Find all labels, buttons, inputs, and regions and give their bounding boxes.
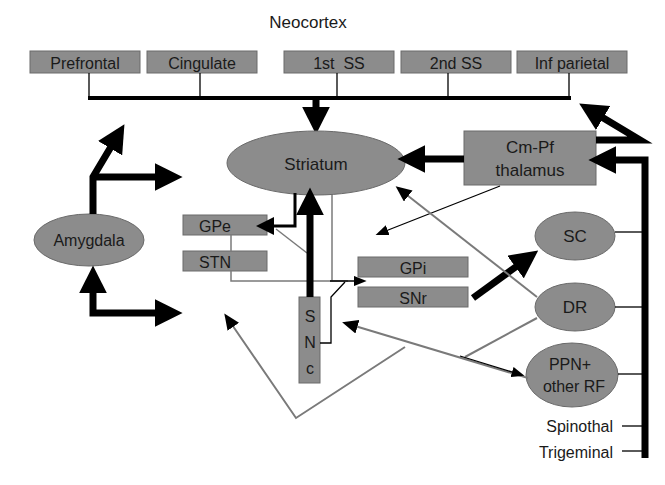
snc-label-n: N	[304, 334, 316, 351]
sc-node: SC	[535, 212, 615, 260]
stn-to-gpi-path	[231, 271, 348, 281]
snc-to-gpi-link	[320, 282, 345, 343]
cortex-area-inf-parietal: Inf parietal	[517, 51, 627, 73]
thalamus-node: Cm-Pf thalamus	[464, 131, 596, 185]
gpe-snc-link	[276, 229, 307, 253]
spinothal-label: Spinothal	[546, 418, 613, 435]
ppn-label-2: other RF	[543, 378, 605, 395]
cortex-label: 1st SS	[313, 55, 365, 72]
cortex-area-1st-ss: 1st SS	[284, 51, 394, 73]
cortex-label: Cingulate	[168, 55, 236, 72]
cortex-label: 2nd SS	[430, 55, 482, 72]
striatum-label: Striatum	[284, 155, 347, 174]
cortex-area-2nd-ss: 2nd SS	[401, 51, 511, 73]
striatum-node: Striatum	[227, 131, 405, 195]
ppn-to-snc-arrow	[345, 323, 528, 378]
thalamus-label-2: thalamus	[496, 161, 565, 180]
snr-node: SNr	[358, 287, 468, 307]
gpi-node: GPi	[358, 257, 468, 277]
dr-descending-branch	[465, 318, 537, 357]
ppn-label-1: PPN+	[549, 356, 591, 373]
amygdala-node: Amygdala	[34, 214, 144, 266]
amygdala-ventral-projection-arrow	[93, 300, 170, 313]
snr-label: SNr	[399, 290, 427, 307]
neocortex-title: Neocortex	[269, 13, 347, 32]
dr-label: DR	[563, 298, 588, 317]
ppn-rf-node: PPN+ other RF	[526, 343, 618, 407]
thalamus-label-1: Cm-Pf	[506, 138, 554, 157]
cortex-area-cingulate: Cingulate	[147, 51, 257, 73]
basal-ganglia-circuit-diagram: Neocortex Prefrontal Cingulate 1st SS 2n…	[0, 0, 665, 485]
cortex-area-prefrontal: Prefrontal	[30, 51, 140, 73]
snr-to-sc-arrow	[473, 258, 528, 298]
cortex-label: Inf parietal	[535, 55, 610, 72]
stn-node: STN	[183, 251, 267, 271]
gpe-label: GPe	[199, 218, 231, 235]
gpe-node: GPe	[183, 215, 267, 235]
sc-label: SC	[563, 227, 587, 246]
snc-label-c: c	[306, 360, 314, 377]
dr-to-striatum-arrow	[398, 188, 537, 297]
stn-label: STN	[199, 254, 231, 271]
gpi-label: GPi	[400, 260, 427, 277]
snc-node: S N c	[299, 297, 320, 383]
dr-node: DR	[535, 283, 615, 331]
to-ppn-arrow	[460, 356, 522, 375]
thalamus-diffuse-projection-arrow	[378, 186, 500, 234]
snc-label-s: S	[305, 308, 316, 325]
cortex-label: Prefrontal	[50, 55, 119, 72]
cortex-bus	[88, 73, 571, 98]
thalamus-to-cortex-arrow	[590, 110, 640, 140]
amygdala-label: Amygdala	[53, 232, 124, 249]
trigeminal-label: Trigeminal	[539, 444, 613, 461]
